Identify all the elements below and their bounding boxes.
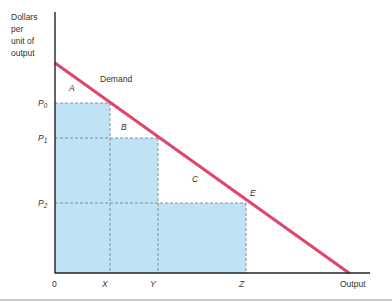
x-axis-label: Output (340, 279, 366, 289)
shaded-region-p2 (158, 203, 246, 273)
region-a-label: A (68, 83, 75, 93)
region-c-label: C (192, 174, 199, 184)
tick-p2: P2 (38, 198, 48, 209)
y-axis-label-line1: Dollars (11, 12, 37, 22)
point-e-label: E (250, 188, 256, 198)
tick-x: X (101, 279, 108, 289)
y-axis-label-line3: unit of (11, 36, 35, 46)
y-axis-label-line4: output (11, 48, 35, 58)
tick-y: Y (150, 279, 157, 289)
region-b-label: B (121, 122, 127, 132)
demand-label: Demand (100, 74, 132, 84)
y-axis-label-line2: per (11, 24, 23, 34)
shaded-region-p1 (110, 138, 158, 273)
origin-label: 0 (52, 279, 57, 289)
tick-p1: P1 (38, 133, 48, 144)
tick-z: Z (238, 279, 245, 289)
tick-p0: P0 (38, 98, 48, 109)
demand-price-discrimination-chart: Dollars per unit of output P0 P1 P2 0 X … (0, 0, 392, 304)
shaded-region-p0 (55, 103, 110, 273)
